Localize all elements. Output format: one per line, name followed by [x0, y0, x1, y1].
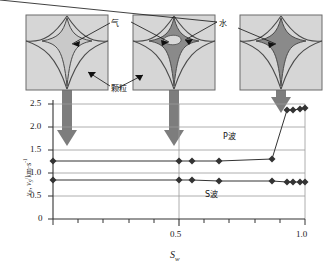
- chart-x-ticks: [53, 219, 305, 226]
- annotation-grain-label: 颗粒: [111, 82, 127, 93]
- arrow-sw-0: [57, 88, 77, 146]
- x-tick-label-0-5: 0.5: [170, 229, 181, 239]
- panel-sw-0: [26, 15, 110, 90]
- x-axis-title: Sw: [170, 249, 180, 262]
- y-tick-label-1-5: 1.5: [30, 144, 41, 154]
- y-axis-title: vP, vS/km·s-1: [22, 159, 34, 196]
- arrow-sw-05: [164, 88, 184, 146]
- annotation-water-label: 水: [219, 17, 227, 28]
- x-tick-label-1-0: 1.0: [296, 229, 307, 239]
- figure-root: [0, 0, 330, 276]
- annotation-gas-label: 气: [111, 17, 119, 28]
- y-tick-label-2-0: 2.0: [30, 121, 41, 131]
- panel-to-chart-arrows: [57, 88, 291, 146]
- series-label-s-wave: S波: [205, 188, 218, 199]
- y-tick-label-0: 0: [38, 213, 43, 223]
- series-label-p-wave: P波: [223, 130, 236, 141]
- y-tick-label-2-5: 2.5: [30, 98, 41, 108]
- panel-sw-10: [238, 15, 322, 90]
